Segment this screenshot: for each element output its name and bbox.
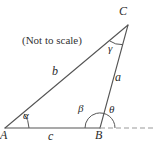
side-label-c: c xyxy=(48,130,53,142)
triangle-diagram: A B C a b c α β γ θ (Not to scale) xyxy=(0,0,158,145)
angle-label-beta: β xyxy=(78,103,83,114)
vertex-label-b: B xyxy=(95,129,102,141)
angle-label-theta: θ xyxy=(109,104,114,115)
angle-theta-arc xyxy=(96,113,115,128)
angle-label-gamma: γ xyxy=(108,43,112,54)
triangle-diagram-canvas xyxy=(0,0,158,145)
vertex-label-c: C xyxy=(119,5,127,17)
vertex-label-a: A xyxy=(0,129,7,141)
angle-label-alpha: α xyxy=(23,110,29,121)
not-to-scale-note: (Not to scale) xyxy=(22,35,82,46)
side-label-b: b xyxy=(52,65,58,77)
angle-beta-arc xyxy=(85,113,96,128)
side-label-a: a xyxy=(115,71,121,83)
